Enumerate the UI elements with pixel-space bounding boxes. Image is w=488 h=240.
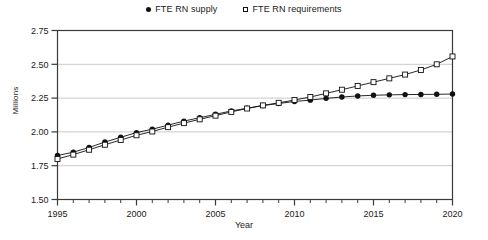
data-point-marker [118,138,123,143]
y-tick-label: 2.50 [31,60,49,70]
data-point-marker [387,76,392,81]
data-point-marker [308,95,313,100]
data-point-marker [323,96,328,101]
data-point-marker [260,103,265,108]
data-point-marker [229,109,234,114]
y-axis-ticks: 1.501.752.002.252.502.75 [31,26,58,205]
data-point-marker [71,152,76,157]
data-point-marker [450,91,455,96]
data-point-marker [355,83,360,88]
data-point-marker [403,72,408,77]
x-tick-label: 2005 [205,209,225,219]
y-tick-label: 2.75 [31,26,49,36]
x-tick-label: 2020 [442,209,462,219]
x-tick-label: 1995 [47,209,67,219]
data-point-marker [355,93,360,98]
data-point-marker [450,54,455,59]
data-point-marker [387,92,392,97]
series-filled-circle [55,91,455,158]
y-tick-label: 2.25 [31,93,49,103]
data-series-layer [55,54,455,161]
data-point-marker [150,129,155,134]
y-tick-label: 1.50 [31,195,49,205]
data-point-marker [434,62,439,67]
data-point-marker [418,67,423,72]
y-tick-label: 1.75 [31,161,49,171]
chart-figure: FTE RN supply FTE RN requirements Millio… [0,0,488,240]
x-tick-label: 2000 [126,209,146,219]
data-point-marker [87,147,92,152]
y-tick-label: 2.00 [31,127,49,137]
x-tick-label: 2010 [284,209,304,219]
data-point-marker [276,100,281,105]
data-point-marker [166,125,171,130]
gridlines [58,64,453,165]
data-point-marker [324,91,329,96]
data-point-marker [245,106,250,111]
data-point-marker [402,92,407,97]
data-point-marker [339,94,344,99]
series-open-square [55,54,455,161]
data-point-marker [213,113,218,118]
plot-area: 1.501.752.002.252.502.75 199520002005201… [0,0,488,240]
data-point-marker [102,142,107,147]
x-tick-label: 2015 [363,209,383,219]
data-point-marker [434,92,439,97]
data-point-marker [339,87,344,92]
data-point-marker [371,93,376,98]
data-point-marker [134,133,139,138]
plot-frame [58,31,453,200]
data-point-marker [55,156,60,161]
data-point-marker [292,97,297,102]
data-point-marker [418,92,423,97]
x-axis-ticks: 199520002005201020152020 [47,200,462,219]
data-point-marker [197,117,202,122]
data-point-marker [181,121,186,126]
data-point-marker [371,80,376,85]
